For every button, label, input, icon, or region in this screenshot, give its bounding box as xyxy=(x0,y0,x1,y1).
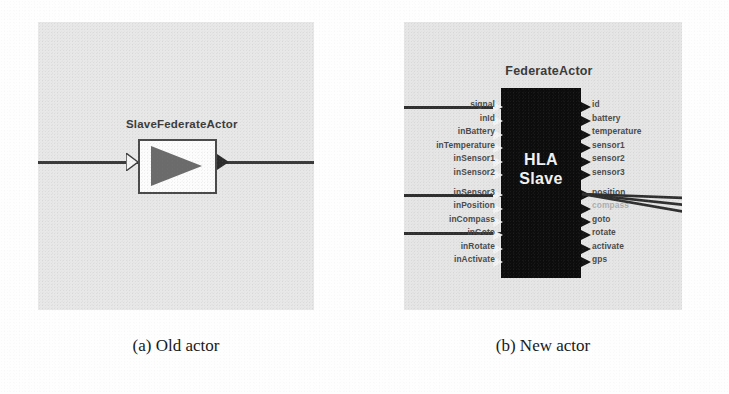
actor-a-output-port-icon[interactable] xyxy=(217,154,229,170)
port-in-insensor3-label: inSensor3 xyxy=(404,187,495,197)
wire-bundle-outputs xyxy=(580,184,682,234)
port-out-gps-label: gps xyxy=(592,254,607,264)
port-in-inrotate-label: inRotate xyxy=(404,241,495,251)
actor-a-name-label: SlaveFederateActor xyxy=(126,118,296,130)
port-out-sensor3-icon[interactable] xyxy=(581,170,591,180)
actor-b-block-label-line2: Slave xyxy=(519,170,562,187)
actor-b-block-label-line1: HLA xyxy=(524,151,558,168)
port-out-temperature-icon[interactable] xyxy=(581,130,591,140)
figure-actor-comparison: SlaveFederateActor (a) Old actor Federat… xyxy=(0,0,729,394)
port-in-insensor1-label: inSensor1 xyxy=(404,153,495,163)
actor-b-block-label: HLA Slave xyxy=(501,150,581,188)
port-out-battery-icon[interactable] xyxy=(581,116,591,126)
subfigure-a-caption: (a) Old actor xyxy=(38,336,314,356)
port-out-id-label: id xyxy=(592,99,600,109)
port-out-temperature-label: temperature xyxy=(592,126,642,136)
subfigure-b-panel: FederateActor HLA Slave signal inId inBa… xyxy=(404,22,682,310)
port-in-insensor2-label: inSensor2 xyxy=(404,167,495,177)
port-in-ingoto-label: inGoto xyxy=(404,227,495,237)
port-out-sensor1-label: sensor1 xyxy=(592,140,625,150)
port-in-incompass-label: inCompass xyxy=(404,214,495,224)
port-out-activate-label: activate xyxy=(592,241,624,251)
actor-a-input-port-icon[interactable] xyxy=(126,153,138,171)
port-in-inactivate-label: inActivate xyxy=(404,254,495,264)
port-out-gps-icon[interactable] xyxy=(581,257,591,267)
port-in-signal-label: signal xyxy=(404,99,495,109)
port-out-battery-label: battery xyxy=(592,113,621,123)
port-out-sensor2-label: sensor2 xyxy=(592,153,625,163)
port-in-inposition-label: inPosition xyxy=(404,200,495,210)
actor-b-name-label: FederateActor xyxy=(469,64,629,78)
triangle-right-icon xyxy=(151,146,202,186)
port-in-inbattery-label: inBattery xyxy=(404,126,495,136)
subfigure-b-caption: (b) New actor xyxy=(404,336,682,356)
port-out-sensor1-icon[interactable] xyxy=(581,143,591,153)
port-in-intemperature-label: inTemperature xyxy=(404,140,495,150)
port-out-activate-icon[interactable] xyxy=(581,244,591,254)
subfigure-a-panel: SlaveFederateActor xyxy=(38,22,314,310)
port-out-sensor2-icon[interactable] xyxy=(581,157,591,167)
port-in-inid-label: inId xyxy=(404,113,495,123)
port-out-sensor3-label: sensor3 xyxy=(592,167,625,177)
port-out-id-icon[interactable] xyxy=(581,102,591,112)
